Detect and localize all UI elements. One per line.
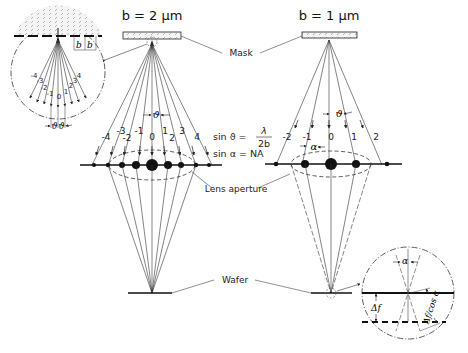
right-title: b = 1 µm [299, 8, 360, 23]
svg-text:b: b [76, 40, 82, 50]
svg-text:-4: -4 [102, 132, 111, 142]
right-focusing-rays [291, 164, 371, 293]
svg-text:α: α [311, 141, 318, 152]
svg-text:ϑ: ϑ [152, 109, 159, 120]
right-setup: b = 1 µm -2 -1 0 1 2 ϑ [265, 8, 402, 298]
left-ray-arrows [96, 146, 208, 155]
svg-text:-2: -2 [283, 132, 292, 142]
svg-text:ϑ: ϑ [51, 121, 57, 131]
equations: sin ϑ = λ 2b sin α = NA [213, 125, 272, 159]
right-theta-indicator: ϑ [323, 108, 352, 119]
right-ray-arrows [295, 120, 363, 128]
svg-text:1: 1 [351, 132, 357, 142]
svg-text:0: 0 [57, 93, 61, 101]
wafer-detail-inset: α Δf Δf/cos α [337, 247, 454, 339]
sin-alpha-eq: sin α = NA [213, 148, 264, 159]
right-alpha-indicator: α [300, 141, 325, 152]
left-theta-indicator: ϑ [143, 109, 170, 120]
svg-text:0: 0 [149, 132, 155, 142]
left-focusing-rays [108, 165, 196, 293]
svg-text:ϑ: ϑ [58, 121, 64, 131]
svg-text:b: b [87, 40, 93, 50]
svg-text:2: 2 [169, 133, 175, 143]
sin-theta-eq: sin ϑ = [213, 131, 247, 142]
lithography-diffraction-diagram: b = 2 µm [0, 0, 468, 353]
right-diffraction-rays [276, 40, 382, 165]
sin-theta-numerator: λ [260, 125, 267, 136]
svg-text:-1: -1 [135, 126, 144, 136]
svg-text:ϑ: ϑ [335, 108, 342, 119]
left-setup: b = 2 µm [80, 8, 222, 293]
right-order-labels: -2 -1 0 1 2 [283, 132, 379, 142]
svg-text:4: 4 [194, 132, 200, 142]
left-title: b = 2 µm [122, 8, 183, 23]
wafer-label: Wafer [222, 275, 249, 285]
svg-text:-2: -2 [123, 133, 132, 143]
svg-text:α: α [402, 256, 408, 266]
svg-text:3: 3 [179, 126, 185, 136]
svg-text:4: 4 [77, 72, 82, 80]
mask-label: Mask [229, 48, 253, 58]
right-mask [302, 32, 357, 38]
left-order-labels: -4 -3 -2 -1 0 1 2 3 4 [102, 126, 201, 143]
svg-text:1: 1 [64, 88, 68, 96]
mask-detail-inset: b b -4 -3 -2 -1 0 1 2 3 4 [11, 6, 147, 131]
svg-text:2: 2 [373, 132, 379, 142]
mask-inset-pointer [105, 44, 147, 60]
left-mask [123, 32, 181, 39]
wafer-inset-pointer [337, 284, 360, 291]
svg-text:0: 0 [328, 132, 334, 142]
svg-text:Δf: Δf [370, 303, 382, 313]
svg-text:-1: -1 [47, 90, 54, 98]
lens-aperture-label: Lens aperture [205, 184, 268, 194]
svg-text:1: 1 [162, 126, 168, 136]
